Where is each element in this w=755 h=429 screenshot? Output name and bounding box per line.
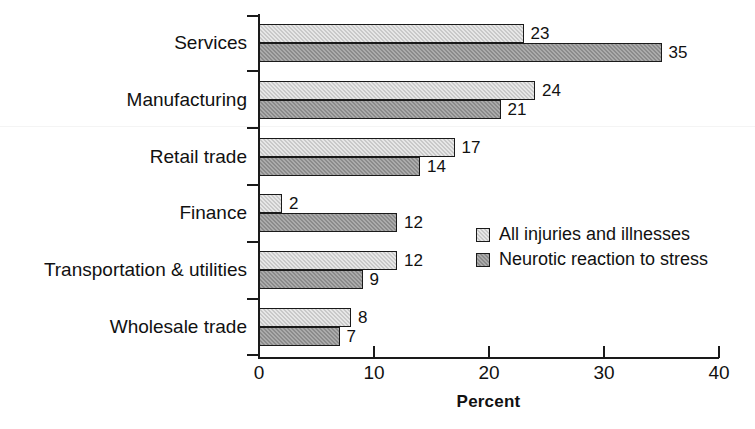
x-axis-title: Percent	[258, 392, 719, 412]
bar-value-label: 8	[358, 308, 367, 328]
x-axis-tick-label: 30	[574, 362, 634, 384]
bar-value-label: 23	[531, 24, 550, 44]
y-axis-tick	[247, 127, 258, 129]
y-axis-tick	[247, 184, 258, 186]
legend-label: Neurotic reaction to stress	[499, 249, 708, 270]
bar-dark	[259, 213, 397, 232]
bar-light	[259, 81, 535, 100]
category-label-manufacturing: Manufacturing	[127, 89, 247, 111]
chart-legend: All injuries and illnessesNeurotic react…	[476, 222, 708, 272]
bar-value-label: 24	[542, 81, 561, 101]
x-axis-tick	[373, 346, 375, 358]
category-label-wholesale-trade: Wholesale trade	[110, 316, 247, 338]
legend-label: All injuries and illnesses	[499, 224, 690, 245]
bar-value-label: 7	[347, 327, 356, 347]
x-axis-tick	[603, 346, 605, 358]
x-axis-tick	[488, 346, 490, 358]
bar-light	[259, 308, 351, 327]
legend-item: Neurotic reaction to stress	[476, 247, 708, 272]
bar-dark	[259, 157, 420, 176]
y-axis-tick	[247, 15, 258, 17]
category-label-transportation-utilities: Transportation & utilities	[44, 259, 247, 281]
category-label-retail-trade: Retail trade	[150, 146, 247, 168]
legend-swatch-dark	[476, 253, 490, 267]
x-axis-tick-label: 0	[229, 362, 289, 384]
bar-light	[259, 24, 524, 43]
bar-value-label: 9	[370, 270, 379, 290]
bar-dark	[259, 100, 501, 119]
bar-value-label: 35	[669, 43, 688, 63]
bar-light	[259, 138, 455, 157]
bar-value-label: 14	[427, 157, 446, 177]
category-label-finance: Finance	[179, 202, 247, 224]
y-axis-tick	[247, 298, 258, 300]
bar-chart: 010203040 ServicesManufacturingRetail tr…	[0, 0, 755, 429]
bar-value-label: 21	[508, 100, 527, 120]
category-label-services: Services	[174, 32, 247, 54]
bar-dark	[259, 43, 662, 62]
legend-item: All injuries and illnesses	[476, 222, 708, 247]
legend-swatch-light	[476, 228, 490, 242]
bar-light	[259, 194, 282, 213]
x-axis-tick	[718, 346, 720, 358]
bar-value-label: 2	[289, 194, 298, 214]
bar-value-label: 17	[462, 138, 481, 158]
bar-dark	[259, 327, 340, 346]
y-axis-tick	[247, 70, 258, 72]
bar-value-label: 12	[404, 213, 423, 233]
scan-seam	[0, 126, 755, 127]
cropped-title-strip	[0, 0, 755, 9]
bar-light	[259, 251, 397, 270]
bar-dark	[259, 270, 363, 289]
bar-value-label: 12	[404, 251, 423, 271]
y-axis-tick	[247, 241, 258, 243]
x-axis-tick-label: 10	[344, 362, 404, 384]
y-axis-tick	[247, 354, 258, 356]
x-axis-tick-label: 20	[459, 362, 519, 384]
x-axis-tick-label: 40	[689, 362, 749, 384]
